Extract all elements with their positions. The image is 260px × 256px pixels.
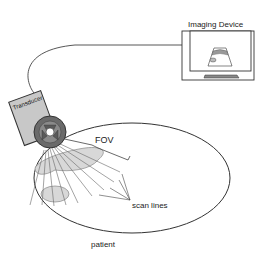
cable bbox=[28, 45, 182, 93]
imaging-device bbox=[182, 31, 254, 80]
scan-lines-label: scan lines bbox=[132, 201, 168, 210]
device-label: Imaging Device bbox=[188, 20, 244, 29]
keyboard bbox=[204, 75, 239, 78]
transducer-wheel bbox=[34, 116, 66, 148]
organ-small bbox=[41, 186, 69, 202]
patient-label: patient bbox=[91, 240, 116, 249]
ultrasound-diagram: FOV scan lines patient Transducer Imagin… bbox=[0, 0, 260, 256]
fov-label: FOV bbox=[95, 135, 114, 145]
